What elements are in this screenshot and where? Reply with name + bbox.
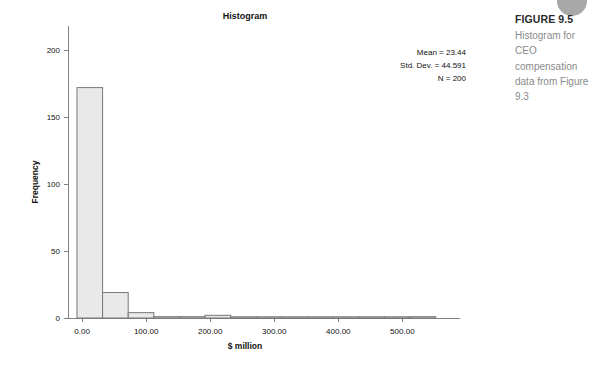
histogram-bar (103, 293, 129, 318)
x-tick-label: 400.00 (326, 327, 351, 336)
histogram-bar (384, 317, 410, 318)
histogram-bar (205, 315, 231, 318)
histogram-bar (308, 317, 334, 318)
x-tick-label: 100.00 (134, 327, 159, 336)
histogram-bar (410, 317, 436, 318)
x-axis-label: $ million (228, 341, 262, 351)
stat-mean: Mean = 23.44 (417, 48, 467, 57)
histogram-figure: Histogram Frequency $ million Mean = 23.… (0, 0, 505, 378)
figure-caption-block: FIGURE 9.5 Histogram for CEO compensatio… (515, 12, 595, 104)
histogram-bar (282, 317, 308, 318)
histogram-bar (179, 317, 205, 318)
histogram-bar (154, 317, 180, 318)
y-tick-label: 100 (47, 180, 61, 189)
chart-title: Histogram (223, 11, 268, 21)
histogram-bar (77, 88, 103, 318)
statistics-annotation: Mean = 23.44 Std. Dev. = 44.591 N = 200 (400, 48, 466, 83)
x-tick-label: 500.00 (390, 327, 415, 336)
y-tick-label: 200 (47, 46, 61, 55)
stat-n: N = 200 (438, 74, 467, 83)
x-tick-label: 0.00 (74, 327, 90, 336)
figure-number: FIGURE 9.5 (515, 12, 595, 26)
histogram-bar (231, 317, 257, 318)
histogram-bar (128, 313, 154, 318)
histogram-bar (256, 317, 282, 318)
x-tick-label: 300.00 (262, 327, 287, 336)
histogram-chart: Histogram Frequency $ million Mean = 23.… (0, 0, 505, 378)
y-axis-label: Frequency (30, 160, 40, 203)
figure-caption-text: Histogram for CEO compensation data from… (515, 28, 595, 104)
y-tick-label: 0 (56, 314, 61, 323)
y-tick-label: 150 (47, 113, 61, 122)
x-tick-label: 200.00 (198, 327, 223, 336)
y-tick-label: 50 (51, 247, 60, 256)
histogram-bar (333, 317, 359, 318)
page-canvas: Histogram Frequency $ million Mean = 23.… (0, 0, 600, 378)
histogram-bar (359, 317, 385, 318)
plot-area: 0501001502000.00100.00200.00300.00400.00… (47, 26, 460, 336)
stat-std-dev: Std. Dev. = 44.591 (400, 61, 466, 70)
